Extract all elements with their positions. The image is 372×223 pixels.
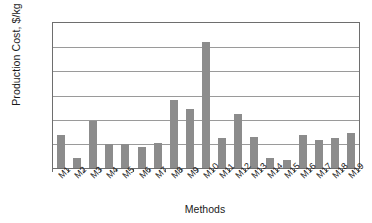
bar-M16 bbox=[299, 135, 307, 168]
x-axis-title: Methods bbox=[52, 203, 358, 215]
bar-M10 bbox=[202, 42, 210, 168]
bar-M13 bbox=[250, 137, 258, 168]
plot-area bbox=[52, 22, 360, 169]
x-tick-mark bbox=[52, 168, 53, 172]
bar-M1 bbox=[57, 135, 65, 168]
bar-M18 bbox=[331, 138, 339, 168]
production-cost-bar-chart: Production Cost, $/kg H2 0.02.04.06.08.0… bbox=[0, 0, 372, 223]
bar-M3 bbox=[89, 121, 97, 168]
bars bbox=[53, 23, 359, 168]
y-axis-title-text: Production Cost, $/kg H bbox=[10, 0, 22, 106]
bar-M11 bbox=[218, 138, 226, 168]
y-axis-title: Production Cost, $/kg H2 bbox=[10, 0, 24, 122]
bar-M12 bbox=[234, 114, 242, 168]
bar-M8 bbox=[170, 100, 178, 168]
bar-M17 bbox=[315, 140, 323, 168]
bar-M9 bbox=[186, 109, 194, 168]
bar-M19 bbox=[347, 133, 355, 168]
